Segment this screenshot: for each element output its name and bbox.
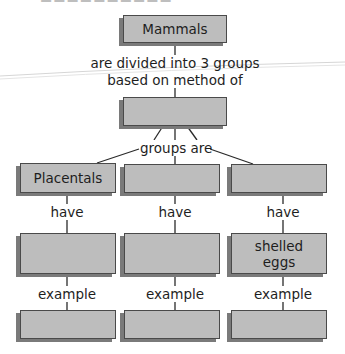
group-box-3[interactable]: [231, 164, 327, 193]
link-line-2: based on method of: [88, 72, 262, 89]
link-example-1: example: [37, 286, 97, 302]
trait-label-line-1: shelled: [255, 238, 303, 254]
method-box[interactable]: [123, 97, 227, 126]
group-box-2[interactable]: [124, 164, 220, 193]
group-box-placentals: Placentals: [20, 163, 116, 193]
concept-map: ▬▬▬▬▬▬▬▬▬▬: [0, 0, 345, 354]
trait-box-2[interactable]: [124, 233, 220, 274]
example-box-3[interactable]: [231, 310, 327, 339]
trait-box-1[interactable]: [20, 233, 116, 274]
link-have-3: have: [263, 204, 303, 220]
mammals-label: Mammals: [142, 21, 207, 37]
link-line-1: are divided into 3 groups: [88, 55, 262, 72]
group-label: Placentals: [34, 170, 103, 186]
link-example-2: example: [145, 286, 205, 302]
link-divided-into-groups: are divided into 3 groups based on metho…: [88, 55, 262, 89]
example-box-1[interactable]: [20, 310, 116, 339]
trait-box-shelled-eggs: shelled eggs: [231, 233, 327, 274]
link-have-2: have: [155, 204, 195, 220]
clipped-header-text: ▬▬▬▬▬▬▬▬▬▬: [40, 0, 173, 6]
trait-label-line-2: eggs: [263, 254, 295, 270]
link-example-3: example: [253, 286, 313, 302]
link-have-1: have: [47, 204, 87, 220]
link-groups-are: groups are: [140, 140, 210, 156]
example-box-2[interactable]: [124, 310, 220, 339]
mammals-box: Mammals: [123, 15, 227, 43]
